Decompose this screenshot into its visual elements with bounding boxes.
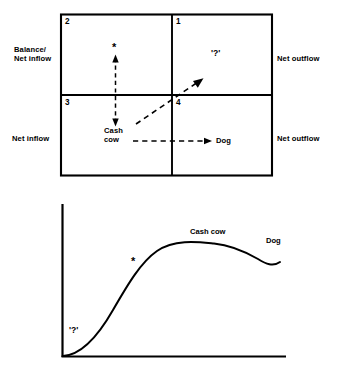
matrix-question-mark-label: '?' (211, 48, 220, 58)
arrow-head-right (204, 138, 212, 145)
arrow-head-up (112, 55, 118, 63)
matrix-label-right-top: Net outflow (277, 54, 319, 63)
chart-annotation-cash-cow: Cash cow (190, 227, 225, 236)
arrow-star-to-cash-cow (112, 55, 118, 127)
matrix-label-right-bottom: Net outflow (277, 134, 319, 143)
matrix-label-left-bottom: Net inflow (12, 134, 49, 143)
chart-annotation-question-mark: '?' (69, 325, 78, 335)
chart-annotation-dog: Dog (266, 236, 281, 245)
matrix-quadrant-number-4: 4 (176, 98, 181, 107)
matrix-label-left-top: Balance/ Net inflow (14, 45, 51, 63)
matrix-quadrant-number-3: 3 (65, 98, 70, 107)
matrix-quadrant-number-2: 2 (65, 17, 70, 26)
arrow-head-diagonal (193, 78, 204, 88)
arrow-shaft-diagonal (136, 82, 198, 124)
lifecycle-chart-group (62, 204, 287, 357)
chart-annotation-star: * (131, 256, 135, 267)
matrix-quadrant-number-1: 1 (176, 17, 181, 26)
matrix-dog-label: Dog (216, 136, 231, 145)
arrow-cash-cow-to-question (136, 78, 204, 124)
matrix-group (61, 15, 272, 176)
chart-lifecycle-curve (63, 242, 280, 356)
matrix-cash-cow-label: Cash cow (104, 126, 123, 144)
figure-root: 2 1 3 4 Balance/ Net inflow Net outflow … (0, 0, 341, 380)
matrix-star-marker: * (112, 42, 116, 53)
